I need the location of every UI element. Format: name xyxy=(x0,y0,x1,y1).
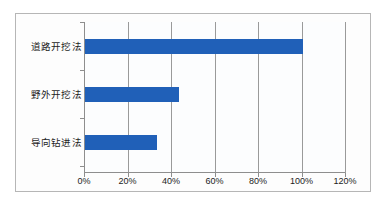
xtick-label-40: 40% xyxy=(162,177,180,186)
category-label-2: 导向钻进法 xyxy=(31,138,83,148)
plot-area xyxy=(84,22,345,173)
xtick-label-100: 100% xyxy=(290,177,313,186)
category-axis-labels: 道路开挖法 野外开挖法 导向钻进法 xyxy=(16,22,82,173)
xtick-label-60: 60% xyxy=(205,177,223,186)
bar-0 xyxy=(85,39,303,54)
bar-2 xyxy=(85,135,157,150)
xtick-label-80: 80% xyxy=(249,177,267,186)
bar-chart: 道路开挖法 野外开挖法 导向钻进法 xyxy=(0,0,382,206)
category-tick-2 xyxy=(80,118,84,119)
category-label-0: 道路开挖法 xyxy=(31,42,83,52)
chart-frame: 道路开挖法 野外开挖法 导向钻进法 xyxy=(15,13,371,192)
bar-1 xyxy=(85,87,179,102)
xtick-label-0: 0% xyxy=(77,177,90,186)
category-label-1: 野外开挖法 xyxy=(31,90,83,100)
category-tick-3 xyxy=(80,166,84,167)
gridline-120 xyxy=(345,22,346,173)
category-tick-1 xyxy=(80,70,84,71)
category-tick-0 xyxy=(80,22,84,23)
xtick-label-20: 20% xyxy=(118,177,136,186)
xtick-label-120: 120% xyxy=(333,177,356,186)
value-axis-labels: 0% 20% 40% 60% 80% 100% 120% xyxy=(84,177,345,191)
